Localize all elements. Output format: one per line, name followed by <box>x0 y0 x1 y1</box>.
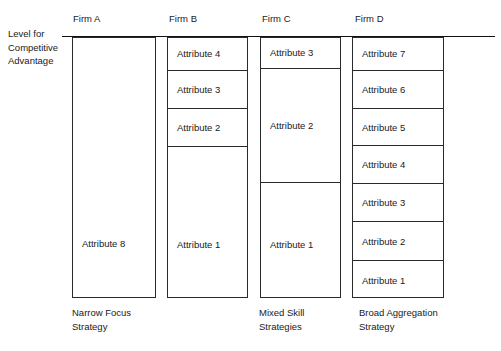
attribute-segment-label: Attribute 4 <box>177 48 220 60</box>
strategy-label-c: Mixed Skill Strategies <box>259 306 304 333</box>
attribute-segment[interactable]: Attribute 1 <box>353 261 443 297</box>
attribute-segment[interactable]: Attribute 7 <box>353 38 443 71</box>
attribute-segment-label: Attribute 3 <box>177 84 220 96</box>
firm-header-a: Firm A <box>73 13 100 25</box>
attribute-segment[interactable]: Attribute 3 <box>168 71 247 109</box>
attribute-segment[interactable]: Attribute 1 <box>261 183 340 297</box>
firm-column-c[interactable]: Attribute 3 Attribute 2 Attribute 1 <box>260 37 341 298</box>
firm-column-b[interactable]: Attribute 4 Attribute 3 Attribute 2 Attr… <box>167 37 248 298</box>
attribute-segment[interactable]: Attribute 6 <box>353 71 443 109</box>
attribute-segment[interactable]: Attribute 5 <box>353 109 443 146</box>
strategy-label-d: Broad Aggregation Strategy <box>359 306 438 333</box>
attribute-segment-label: Attribute 2 <box>177 122 220 134</box>
attribute-segment-label: Attribute 2 <box>362 236 405 248</box>
diagram-canvas: Level for Competitive Advantage Firm A F… <box>0 0 501 351</box>
firm-header-d: Firm D <box>355 13 384 25</box>
attribute-segment-label: Attribute 3 <box>362 197 405 209</box>
attribute-segment-label: Attribute 4 <box>362 159 405 171</box>
strategy-label-a: Narrow Focus Strategy <box>72 306 131 333</box>
firm-column-a[interactable]: Attribute 8 <box>72 37 156 298</box>
attribute-segment[interactable]: Attribute 2 <box>261 69 340 183</box>
strategy-label-a-line-2: Strategy <box>72 320 131 334</box>
attribute-segment[interactable]: Attribute 8 <box>73 38 155 297</box>
firm-header-c: Firm C <box>262 13 291 25</box>
attribute-segment[interactable]: Attribute 3 <box>353 184 443 222</box>
attribute-segment-label: Attribute 5 <box>362 122 405 134</box>
attribute-segment-label: Attribute 1 <box>270 239 313 251</box>
attribute-segment-label: Attribute 3 <box>270 47 313 59</box>
attribute-segment-label: Attribute 6 <box>362 84 405 96</box>
attribute-segment-label: Attribute 1 <box>362 275 405 287</box>
attribute-segment[interactable]: Attribute 2 <box>168 109 247 147</box>
strategy-label-d-line-2: Strategy <box>359 320 438 334</box>
attribute-segment[interactable]: Attribute 3 <box>261 38 340 69</box>
attribute-segment[interactable]: Attribute 4 <box>168 38 247 71</box>
strategy-label-a-line-1: Narrow Focus <box>72 306 131 320</box>
strategy-label-d-line-1: Broad Aggregation <box>359 306 438 320</box>
y-axis-label-line-3: Advantage <box>8 54 64 68</box>
firm-column-d[interactable]: Attribute 7 Attribute 6 Attribute 5 Attr… <box>352 37 444 298</box>
strategy-label-c-line-1: Mixed Skill <box>259 306 304 320</box>
y-axis-label: Level for Competitive Advantage <box>8 27 64 68</box>
attribute-segment-label: Attribute 7 <box>362 48 405 60</box>
attribute-segment[interactable]: Attribute 1 <box>168 147 247 297</box>
attribute-segment-label: Attribute 8 <box>82 238 125 250</box>
firm-header-b: Firm B <box>169 13 197 25</box>
attribute-segment[interactable]: Attribute 4 <box>353 146 443 184</box>
attribute-segment[interactable]: Attribute 2 <box>353 222 443 261</box>
attribute-segment-label: Attribute 2 <box>270 120 313 132</box>
y-axis-label-line-2: Competitive <box>8 41 64 55</box>
strategy-label-c-line-2: Strategies <box>259 320 304 334</box>
attribute-segment-label: Attribute 1 <box>177 239 220 251</box>
y-axis-label-line-1: Level for <box>8 27 64 41</box>
